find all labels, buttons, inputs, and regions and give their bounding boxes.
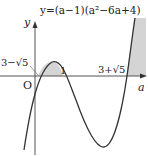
y-axis-label: y (24, 17, 30, 28)
cubic-graph-figure: y y=(a−1)(a²−6a+4) 3−√5 O 1 3+√5 a (0, 0, 148, 156)
right-root-label: 3+√5 (98, 64, 125, 75)
equation-label: y=(a−1)(a²−6a+4) (40, 5, 141, 16)
x-axis-label: a (138, 82, 145, 93)
cubic-curve (24, 18, 135, 150)
shaded-region-right (127, 18, 146, 76)
origin-label: O (23, 80, 32, 91)
graph-svg (0, 0, 148, 156)
one-label: 1 (60, 65, 66, 76)
left-root-label: 3−√5 (1, 57, 28, 68)
leader-line (30, 66, 38, 75)
y-axis-arrow-icon (33, 21, 38, 28)
